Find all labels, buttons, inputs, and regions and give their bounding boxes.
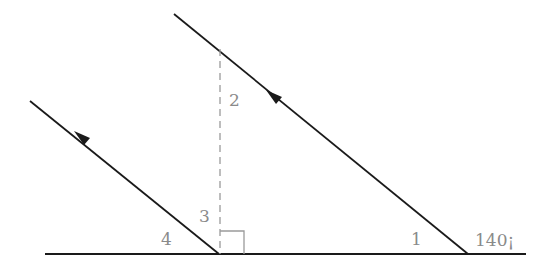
right-angle-marker xyxy=(220,231,244,254)
lower-transversal-line xyxy=(30,101,219,254)
given-angle-label: 140¡ xyxy=(475,230,514,250)
angle-1-label: 1 xyxy=(411,229,422,249)
angle-2-label: 2 xyxy=(229,90,240,110)
upper-transversal-line xyxy=(174,14,468,254)
angle-3-label: 3 xyxy=(199,206,210,226)
geometry-diagram: 2 3 4 1 140¡ xyxy=(0,0,553,272)
upper-arrow-icon xyxy=(266,90,282,104)
angle-4-label: 4 xyxy=(161,229,172,249)
